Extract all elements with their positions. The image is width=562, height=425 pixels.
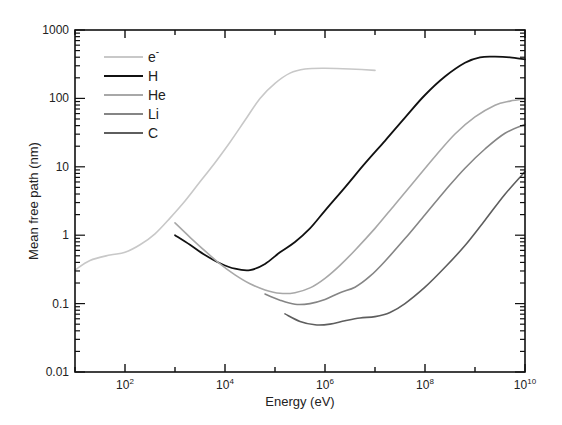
legend-label: He bbox=[148, 87, 166, 103]
series-layer bbox=[75, 57, 525, 325]
series-he-line bbox=[175, 99, 525, 293]
legend-item: C bbox=[104, 125, 158, 141]
legend: e-HHeLiC bbox=[104, 46, 166, 141]
axes: 1021041061081010 0.010.11101001000 bbox=[42, 23, 536, 392]
legend-item: He bbox=[104, 87, 166, 103]
legend-label: Li bbox=[148, 106, 159, 122]
x-axis-label: Energy (eV) bbox=[265, 394, 334, 409]
x-tick-label: 104 bbox=[216, 377, 234, 392]
y-tick-label: 1 bbox=[62, 228, 69, 242]
y-tick-label: 10 bbox=[56, 160, 70, 174]
legend-item: e- bbox=[104, 46, 159, 65]
y-tick-label: 0.01 bbox=[46, 365, 70, 379]
legend-item: Li bbox=[104, 106, 159, 122]
y-tick-label: 0.1 bbox=[52, 297, 69, 311]
y-axis-tick-labels: 0.010.11101001000 bbox=[42, 23, 69, 379]
x-tick-label: 1010 bbox=[514, 377, 537, 392]
y-axis-label: Mean free path (nm) bbox=[26, 142, 41, 260]
y-tick-label: 1000 bbox=[42, 23, 69, 37]
legend-label: H bbox=[148, 68, 158, 84]
series-h-line bbox=[175, 57, 525, 271]
chart: 1021041061081010 0.010.11101001000 Energ… bbox=[0, 0, 562, 425]
x-axis-tick-labels: 1021041061081010 bbox=[116, 377, 537, 392]
series-c-line bbox=[285, 172, 525, 325]
legend-item: H bbox=[104, 68, 158, 84]
x-tick-label: 108 bbox=[416, 377, 434, 392]
legend-label: C bbox=[148, 125, 158, 141]
series-li-line bbox=[265, 124, 525, 304]
series-e-line bbox=[75, 68, 375, 270]
legend-label: e- bbox=[148, 46, 159, 65]
x-tick-label: 102 bbox=[116, 377, 134, 392]
x-tick-label: 106 bbox=[316, 377, 334, 392]
y-tick-label: 100 bbox=[49, 91, 69, 105]
